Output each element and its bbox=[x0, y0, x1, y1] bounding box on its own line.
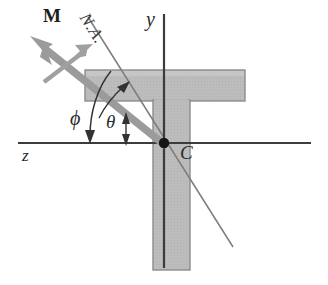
angle-theta-label: θ bbox=[106, 112, 115, 131]
bending-diagram-figure: M N.A. y z C ϕ θ bbox=[0, 0, 328, 285]
y-axis-label: y bbox=[146, 9, 155, 29]
centroid-dot bbox=[159, 138, 169, 148]
z-axis-label: z bbox=[22, 147, 29, 164]
centroid-label: C bbox=[180, 143, 193, 162]
moment-vector-head-secondary bbox=[72, 44, 93, 59]
section-web bbox=[153, 100, 190, 270]
diagram-canvas bbox=[0, 0, 328, 285]
angle-phi-label: ϕ bbox=[70, 108, 80, 128]
moment-vector-label: M bbox=[43, 6, 61, 25]
angle-theta-arrowhead-down bbox=[122, 134, 130, 146]
